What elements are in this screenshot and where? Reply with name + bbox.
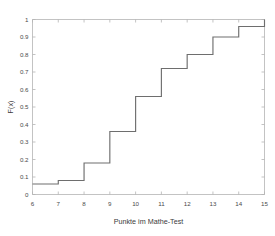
y-axis-title: F(x) xyxy=(6,101,15,114)
x-axis-title: Punkte im Mathe-Test xyxy=(114,217,184,226)
x-tick-label: 10 xyxy=(132,200,139,207)
y-tick-label: 0.2 xyxy=(20,156,29,163)
y-tick-label: 0 xyxy=(25,191,29,198)
x-tick-label: 9 xyxy=(108,200,112,207)
x-tick-label: 7 xyxy=(57,200,61,207)
y-tick-label: 0.7 xyxy=(20,68,29,75)
x-tick-label: 12 xyxy=(184,200,191,207)
x-tick-label: 13 xyxy=(209,200,216,207)
y-tick-label: 0.5 xyxy=(20,103,29,110)
chart-figure: 6789101112131415 00.10.20.30.40.50.60.70… xyxy=(0,0,275,236)
y-tick-label: 0.1 xyxy=(20,173,29,180)
x-tick-label: 8 xyxy=(82,200,86,207)
y-tick-label: 0.3 xyxy=(20,138,29,145)
y-tick-label: 0.4 xyxy=(20,121,29,128)
x-tick-label: 11 xyxy=(158,200,165,207)
x-tick-label: 6 xyxy=(31,200,35,207)
y-tick-label: 0.8 xyxy=(20,51,29,58)
x-tick-label: 15 xyxy=(261,200,268,207)
y-tick-label: 1 xyxy=(25,16,29,23)
x-tick-label: 14 xyxy=(235,200,242,207)
ecdf-step-chart: 6789101112131415 00.10.20.30.40.50.60.70… xyxy=(0,0,275,236)
y-tick-label: 0.9 xyxy=(20,33,29,40)
y-tick-label: 0.6 xyxy=(20,86,29,93)
